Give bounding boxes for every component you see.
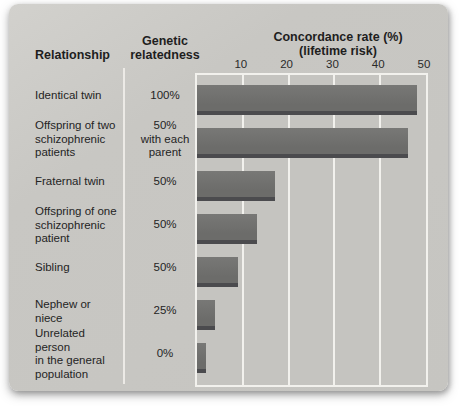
row-relationship-label-5: Nephew or niece <box>35 298 121 325</box>
row-relatedness-value-6: 0% <box>125 347 205 361</box>
gridline-20 <box>288 75 290 385</box>
x-tick-label-10: 10 <box>234 58 247 70</box>
row-relatedness-value-3: 50% <box>125 218 205 232</box>
bar-0 <box>197 85 417 115</box>
row-relationship-label-1: Offspring of two schizophrenic patients <box>35 119 121 160</box>
row-relatedness-value-0: 100% <box>125 89 205 103</box>
gridline-30 <box>333 75 335 385</box>
x-tick-label-30: 30 <box>326 58 339 70</box>
x-tick-label-40: 40 <box>372 58 385 70</box>
plot-area <box>195 73 428 387</box>
bar-3 <box>197 214 257 244</box>
bar-2 <box>197 171 275 201</box>
row-relationship-label-6: Unrelated person in the general populati… <box>35 327 121 381</box>
gridline-40 <box>379 75 381 385</box>
row-relatedness-value-5: 25% <box>125 304 205 318</box>
row-relationship-label-0: Identical twin <box>35 89 121 103</box>
column-header-concordance-rate: Concordance rate (%) (lifetime risk) <box>233 30 443 58</box>
page-background: Relationship Genetic relatedness Concord… <box>0 0 459 409</box>
row-relatedness-value-1: 50% with each parent <box>125 119 205 160</box>
row-relatedness-value-4: 50% <box>125 261 205 275</box>
figure-panel: Relationship Genetic relatedness Concord… <box>9 4 448 391</box>
x-axis-tick-labels: 1020304050 <box>195 58 424 72</box>
row-relationship-label-3: Offspring of one schizophrenic patient <box>35 205 121 246</box>
row-relationship-label-2: Fraternal twin <box>35 175 121 189</box>
bar-1 <box>197 128 408 158</box>
column-header-relationship: Relationship <box>35 48 110 62</box>
row-relationship-label-4: Sibling <box>35 261 121 275</box>
x-tick-label-20: 20 <box>280 58 293 70</box>
x-tick-label-50: 50 <box>418 58 431 70</box>
row-relatedness-value-2: 50% <box>125 175 205 189</box>
